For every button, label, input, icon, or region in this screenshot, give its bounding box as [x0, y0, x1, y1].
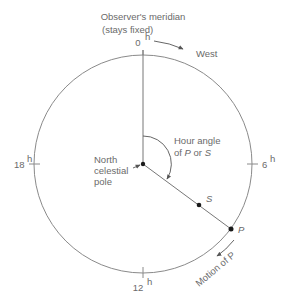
- north-celestial-pole-dot: [141, 162, 145, 166]
- hour-sup-12: h: [147, 276, 152, 287]
- hour-angle-or: or: [191, 147, 205, 158]
- hour-angle-label-line1: Hour angle: [174, 135, 220, 146]
- hour-angle-s: S: [205, 147, 212, 158]
- point-s-label: S: [206, 193, 213, 204]
- hour-angle-label-line2: of P or S: [174, 147, 212, 158]
- point-p-label: P: [238, 224, 245, 235]
- hour-sup-0: h: [145, 31, 150, 42]
- celestial-hour-angle-diagram: Observer's meridian (stays fixed) 0 h 6 …: [0, 0, 284, 304]
- hour-sup-6: h: [270, 153, 275, 164]
- hour-sup-18: h: [27, 153, 32, 164]
- west-arrow-icon: [154, 41, 183, 49]
- point-p-dot: [229, 227, 234, 232]
- hour-angle-arc-icon: [143, 136, 171, 179]
- west-label: West: [196, 48, 218, 59]
- pole-pointer-icon: [133, 165, 140, 168]
- meridian-title: Observer's meridian: [101, 11, 186, 22]
- hour-label-6: 6: [262, 159, 267, 170]
- hour-label-0: 0: [135, 37, 140, 48]
- pole-label-line2: celestial: [94, 165, 128, 176]
- hour-label-12: 12: [133, 282, 144, 293]
- point-s-dot: [197, 203, 202, 208]
- hour-label-18: 18: [14, 159, 25, 170]
- motion-label: Motion of P: [193, 249, 237, 288]
- pole-label-line3: pole: [94, 176, 112, 187]
- hour-angle-prefix: of: [174, 147, 185, 158]
- hour-circle-line: [143, 164, 231, 229]
- pole-label-line1: North: [94, 154, 117, 165]
